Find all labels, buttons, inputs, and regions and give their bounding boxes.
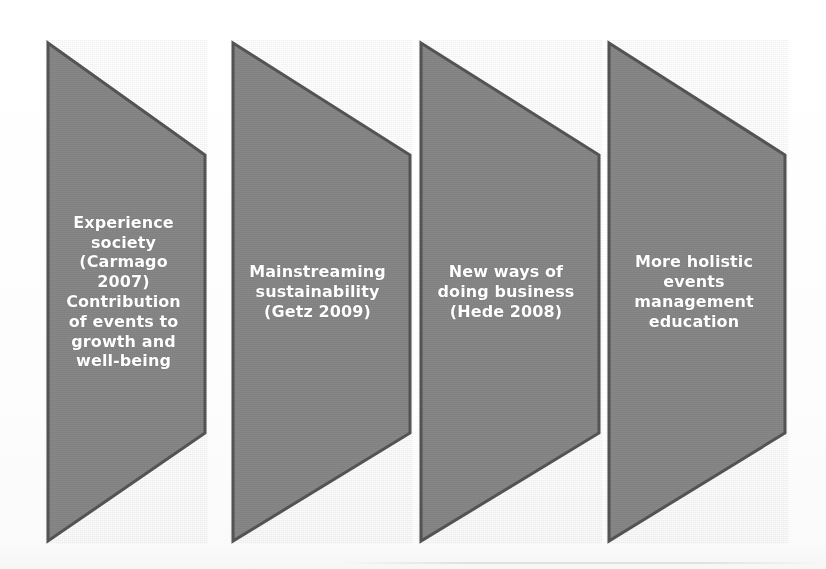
chevron-step-3[interactable]: New ways of doing business (Hede 2008) xyxy=(418,40,602,544)
chevron-label-4: More holistic events management educatio… xyxy=(619,252,769,331)
chevron-label-3: New ways of doing business (Hede 2008) xyxy=(433,262,579,321)
chevron-label-2: Mainstreaming sustainability (Getz 2009) xyxy=(247,262,389,321)
chevron-label-1: Experience society (Carmago 2007) Contri… xyxy=(65,213,183,372)
chevron-step-4[interactable]: More holistic events management educatio… xyxy=(606,40,788,544)
diagram-canvas: Experience society (Carmago 2007) Contri… xyxy=(0,0,826,569)
chevron-step-2[interactable]: Mainstreaming sustainability (Getz 2009) xyxy=(230,40,413,544)
chevron-step-1[interactable]: Experience society (Carmago 2007) Contri… xyxy=(45,40,208,544)
scan-edge-artifact xyxy=(340,562,826,564)
